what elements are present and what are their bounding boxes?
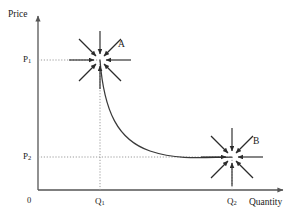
y-tick-label-p2: P2: [23, 152, 31, 162]
x-tick-q2-subscript: 2: [234, 199, 237, 206]
axis-lines: [38, 16, 283, 190]
arrow-b-from-southwest: [211, 161, 228, 178]
y-axis-title: Price: [8, 10, 28, 20]
point-label-a: A: [118, 40, 125, 50]
x-tick-label-q1: Q1: [95, 197, 105, 207]
guide-lines: [38, 60, 232, 190]
x-axis-title: Quantity: [249, 198, 282, 208]
arrow-a-from-southwest: [79, 64, 96, 81]
x-tick-label-q2: Q2: [227, 197, 237, 207]
point-label-b: B: [253, 137, 259, 147]
arrow-b-from-northeast: [236, 136, 253, 153]
x-tick-q1-subscript: 1: [102, 199, 105, 206]
arrow-b-from-southeast: [236, 161, 253, 178]
arrow-a-from-northwest: [79, 39, 96, 56]
demand-curve: [100, 60, 232, 158]
arrow-a-from-southeast: [104, 64, 121, 81]
price-quantity-diagram: Price Quantity 0 P1 P2 Q1 Q2 A B: [0, 0, 299, 220]
diagram-canvas: [0, 0, 299, 220]
y-tick-label-p1: P1: [23, 55, 31, 65]
y-tick-p1-subscript: 1: [28, 57, 31, 64]
y-tick-p2-subscript: 2: [28, 154, 31, 161]
arrow-b-from-northwest: [211, 136, 228, 153]
origin-label: 0: [27, 196, 31, 205]
